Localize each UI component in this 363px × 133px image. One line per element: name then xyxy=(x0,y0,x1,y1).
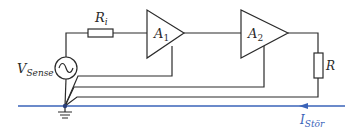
wire-source-to-ri xyxy=(66,33,88,57)
label-istor: IStör xyxy=(299,113,325,129)
wire-a2-to-r xyxy=(288,33,318,53)
label-r: R xyxy=(325,59,335,73)
wire-source-to-ground xyxy=(65,79,66,106)
current-arrow-icon xyxy=(299,103,308,109)
circuit-diagram: Ri A1 A2 R VSense IStör xyxy=(0,0,363,133)
wire-r-return xyxy=(65,78,318,106)
ground-junction-dot xyxy=(63,104,67,108)
label-ri: Ri xyxy=(94,10,108,27)
resistor-r xyxy=(314,53,323,78)
resistor-ri xyxy=(88,29,113,37)
label-vsense: VSense xyxy=(17,61,54,78)
circuit-schematic: Ri A1 A2 R VSense IStör xyxy=(0,0,363,133)
